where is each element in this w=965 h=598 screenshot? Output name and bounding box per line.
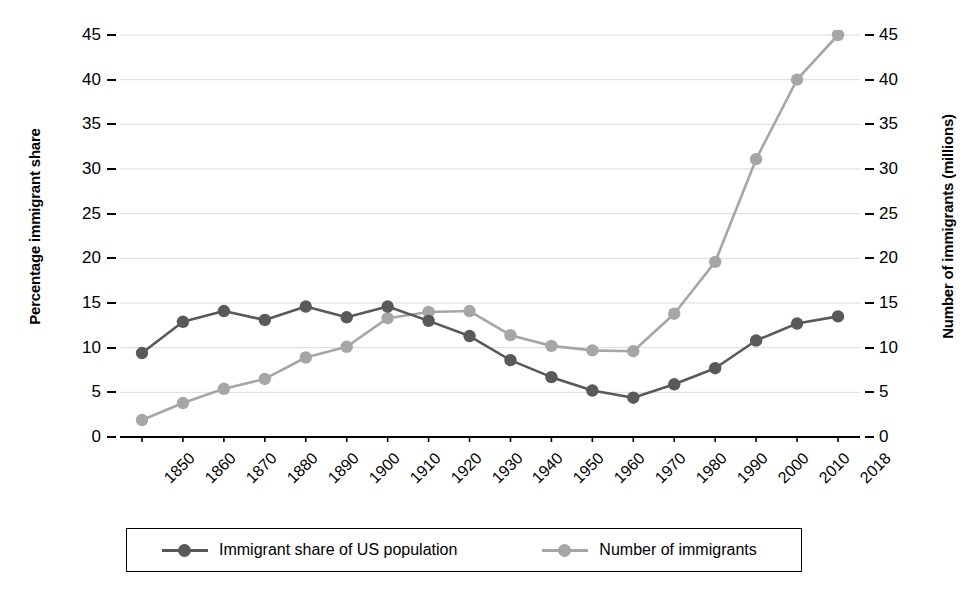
data-point [136,347,148,359]
y-tick-mark [865,347,874,349]
y-tick-label: 30 [879,160,898,177]
data-point [177,397,189,409]
x-tick-label: 1940 [530,450,566,486]
data-point [791,73,803,85]
y-tick-label: 5 [879,383,888,400]
y-tick-label: 0 [92,428,101,445]
y-tick-label: 40 [879,71,898,88]
data-point [832,310,844,322]
data-point [341,311,353,323]
y-axis-right-ticks: 454035302520151050 [879,0,925,598]
y-tick-label: 30 [82,160,101,177]
data-point [300,351,312,363]
chart-figure: Percentage immigrant share Number of imm… [0,0,965,598]
data-point [177,316,189,328]
x-tick-label: 1900 [366,450,402,486]
data-point [545,371,557,383]
y-tick-label: 40 [82,71,101,88]
data-point [668,378,680,390]
x-tick-label: 1850 [161,450,197,486]
x-tick-label: 1950 [571,450,607,486]
x-tick-label: 1880 [284,450,320,486]
data-point [709,256,721,268]
plot-area [120,30,860,442]
x-tick-label: 1980 [694,450,730,486]
data-point [504,329,516,341]
chart-canvas [120,30,860,442]
data-point [259,373,271,385]
y-axis-left-title: Percentage immigrant share [26,107,43,347]
data-point [463,305,475,317]
y-tick-label: 35 [82,115,101,132]
y-tick-label: 45 [82,26,101,43]
data-point [136,414,148,426]
y-tick-mark [865,302,874,304]
y-tick-label: 15 [879,294,898,311]
y-tick-label: 25 [879,205,898,222]
legend-label-0: Immigrant share of US population [219,541,457,559]
y-tick-mark [865,257,874,259]
data-point [218,383,230,395]
y-tick-mark [107,168,116,170]
legend-key-icon-1 [542,543,588,557]
legend-item-immigrant-share[interactable]: Immigrant share of US population [162,541,457,559]
x-tick-label: 1970 [653,450,689,486]
y-tick-mark [107,34,116,36]
data-point [791,317,803,329]
data-point [627,345,639,357]
legend-key-icon-0 [162,543,208,557]
x-tick-label: 1860 [202,450,238,486]
data-point [627,391,639,403]
data-point [586,384,598,396]
y-tick-label: 35 [879,115,898,132]
data-point [218,305,230,317]
y-axis-left-ticks: 454035302520151050 [55,0,101,598]
y-axis-right-title: Number of immigrants (millions) [939,77,956,377]
y-tick-mark [107,257,116,259]
y-tick-label: 10 [879,339,898,356]
y-tick-mark [107,79,116,81]
x-tick-label: 2010 [816,450,852,486]
y-tick-mark [107,347,116,349]
y-tick-mark [107,302,116,304]
legend-item-number-of-immigrants[interactable]: Number of immigrants [542,541,756,559]
data-point [750,334,762,346]
y-tick-mark [107,436,116,438]
y-tick-label: 0 [879,428,888,445]
x-axis-ticks: 1850186018701880189019001910192019301940… [120,446,860,506]
x-tick-label: 1960 [612,450,648,486]
chart-legend: Immigrant share of US population Number … [126,528,802,572]
y-tick-mark [107,213,116,215]
series-line-1 [142,35,838,420]
data-point [586,344,598,356]
y-tick-mark [865,168,874,170]
y-tick-mark [865,34,874,36]
y-tick-mark [107,391,116,393]
data-point [381,300,393,312]
y-tick-mark [865,123,874,125]
y-tick-mark [107,123,116,125]
x-tick-label: 2000 [776,450,812,486]
data-point [504,354,516,366]
y-tick-label: 10 [82,339,101,356]
y-tick-label: 20 [879,249,898,266]
x-tick-label: 1910 [407,450,443,486]
x-tick-label: 1930 [489,450,525,486]
y-tick-label: 20 [82,249,101,266]
y-tick-label: 45 [879,26,898,43]
legend-label-1: Number of immigrants [599,541,756,559]
x-tick-label: 1890 [325,450,361,486]
y-tick-label: 5 [92,383,101,400]
data-point [709,362,721,374]
data-point [341,341,353,353]
data-point [422,315,434,327]
data-point [463,330,475,342]
data-point [750,153,762,165]
data-point [381,312,393,324]
data-point [545,340,557,352]
data-point [300,300,312,312]
y-tick-mark [865,79,874,81]
y-tick-mark [865,391,874,393]
data-point [668,308,680,320]
y-tick-mark [865,436,874,438]
